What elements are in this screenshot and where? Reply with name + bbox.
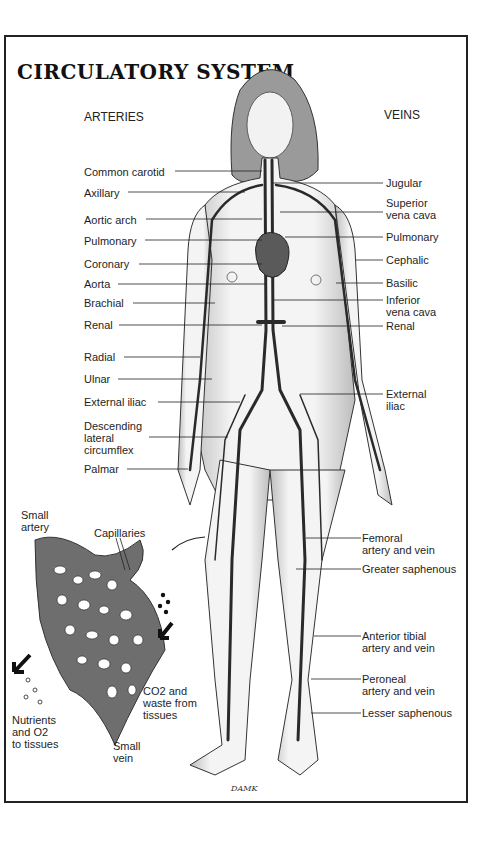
waste-arrow-icon xyxy=(160,623,172,638)
label-small-artery: Small artery xyxy=(21,509,49,533)
label-femoral: Femoral artery and vein xyxy=(362,532,435,556)
label-greater-saphenous: Greater saphenous xyxy=(362,563,456,575)
label-axillary: Axillary xyxy=(84,187,119,199)
label-jugular: Jugular xyxy=(386,177,422,189)
label-co2-waste: CO2 and waste from tissues xyxy=(143,685,197,721)
nutrients-arrow-icon xyxy=(14,655,30,672)
label-pulmonary-artery: Pulmonary xyxy=(84,235,137,247)
callout-arrow-icon xyxy=(172,537,205,550)
label-cephalic: Cephalic xyxy=(386,254,429,266)
label-inferior-vena-cava: Inferior vena cava xyxy=(386,294,436,318)
label-anterior-tibial: Anterior tibial artery and vein xyxy=(362,630,435,654)
label-renal-vein: Renal xyxy=(386,320,415,332)
label-superior-vena-cava: Superior vena cava xyxy=(386,197,436,221)
label-peroneal: Peroneal artery and vein xyxy=(362,673,435,697)
heart-shape xyxy=(255,233,289,278)
label-external-iliac-vein: External iliac xyxy=(386,388,426,412)
label-brachial: Brachial xyxy=(84,297,124,309)
label-external-iliac-artery: External iliac xyxy=(84,396,146,408)
label-radial: Radial xyxy=(84,351,115,363)
label-nutrients-o2: Nutrients and O2 to tissues xyxy=(12,714,58,750)
label-renal-artery: Renal xyxy=(84,319,113,331)
label-basilic: Basilic xyxy=(386,277,418,289)
body-figure-illustration xyxy=(0,0,495,846)
label-palmar: Palmar xyxy=(84,463,119,475)
label-pulmonary-vein: Pulmonary xyxy=(386,231,439,243)
label-aorta: Aorta xyxy=(84,278,110,290)
artist-signature: DAMK xyxy=(231,784,257,793)
label-lesser-saphenous: Lesser saphenous xyxy=(362,707,452,719)
label-aortic-arch: Aortic arch xyxy=(84,214,137,226)
label-descending-lateral-circumflex: Descending lateral circumflex xyxy=(84,420,142,456)
label-ulnar: Ulnar xyxy=(84,373,110,385)
label-common-carotid: Common carotid xyxy=(84,166,165,178)
label-capillaries: Capillaries xyxy=(94,527,145,539)
label-coronary: Coronary xyxy=(84,258,129,270)
label-small-vein: Small vein xyxy=(113,740,141,764)
